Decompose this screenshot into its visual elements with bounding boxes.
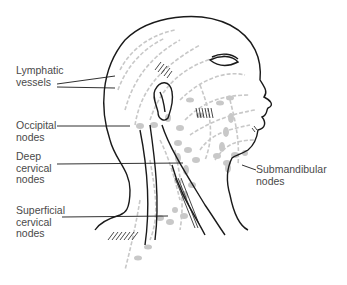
- label-superficial-cervical-nodes: Superficial cervical nodes: [16, 205, 65, 240]
- label-submandibular-nodes: Submandibular nodes: [256, 164, 327, 187]
- label-occipital-nodes: Occipital nodes: [16, 120, 56, 143]
- lymph-nodes: [134, 96, 248, 261]
- label-deep-cervical-nodes: Deep cervical nodes: [16, 151, 52, 186]
- head-outline: [95, 17, 271, 245]
- label-lymphatic-vessels: Lymphatic vessels: [16, 65, 63, 88]
